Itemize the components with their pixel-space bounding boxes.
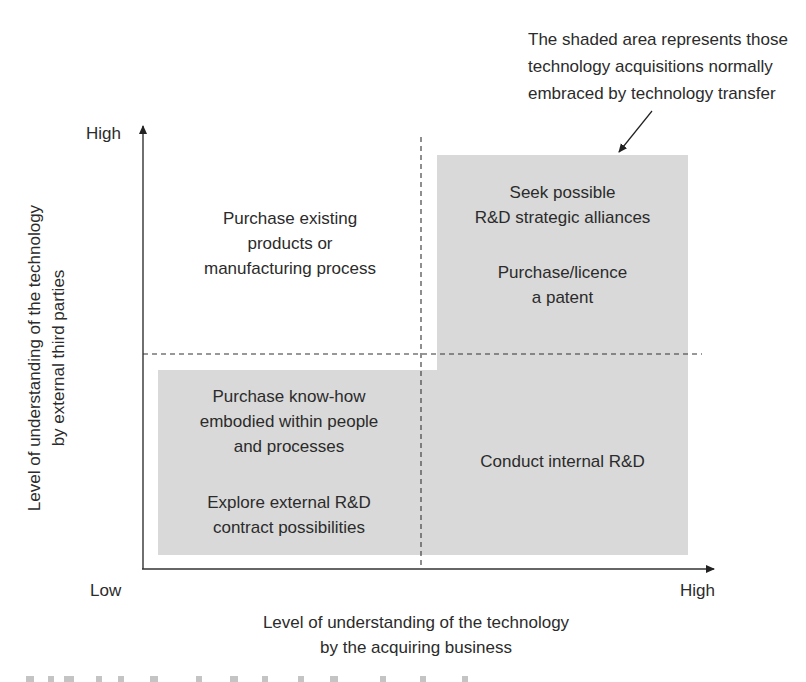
y-axis-title-line: by external third parties — [47, 188, 71, 528]
x-axis-title: Level of understanding of the technology… — [246, 610, 586, 660]
annotation-line: technology acquisitions normally — [528, 53, 768, 80]
y-axis-high-label: High — [86, 124, 121, 144]
quadrant-bottom-left-block-2: Explore external R&D contract possibilit… — [158, 490, 420, 540]
annotation-line: embraced by technology transfer — [528, 80, 768, 107]
quadrant-top-left: Purchase existing products or manufactur… — [170, 206, 410, 281]
x-axis-title-line: Level of understanding of the technology — [246, 610, 586, 635]
annotation-text: The shaded area represents those technol… — [528, 26, 768, 107]
quadrant-bottom-left-block-1: Purchase know-how embodied within people… — [158, 384, 420, 459]
quadrant-top-right-block-1: Seek possible R&D strategic alliances — [437, 180, 688, 230]
quadrant-line: Purchase existing — [170, 206, 410, 231]
y-axis-title: Level of understanding of the technology… — [23, 188, 73, 528]
quadrant-bottom-right: Conduct internal R&D — [437, 449, 688, 474]
quadrant-top-right-block-2: Purchase/licence a patent — [437, 260, 688, 310]
annotation-line: The shaded area represents those — [528, 26, 768, 53]
quadrant-line: manufacturing process — [170, 256, 410, 281]
quadrant-line: Seek possible — [437, 180, 688, 205]
x-axis-title-line: by the acquiring business — [246, 635, 586, 660]
quadrant-line: Purchase/licence — [437, 260, 688, 285]
clipped-caption-fragment — [0, 676, 806, 682]
annotation-arrow — [619, 111, 652, 152]
x-axis-high-label: High — [680, 581, 715, 601]
quadrant-line: a patent — [437, 285, 688, 310]
quadrant-line: Purchase know-how — [158, 384, 420, 409]
quadrant-line: Explore external R&D — [158, 490, 420, 515]
quadrant-line: products or — [170, 231, 410, 256]
quadrant-line: embodied within people — [158, 409, 420, 434]
y-axis-title-line: Level of understanding of the technology — [23, 188, 47, 528]
quadrant-line: R&D strategic alliances — [437, 205, 688, 230]
quadrant-line: and processes — [158, 434, 420, 459]
quadrant-line: contract possibilities — [158, 515, 420, 540]
y-axis-low-label: Low — [90, 581, 121, 601]
quadrant-line: Conduct internal R&D — [437, 449, 688, 474]
